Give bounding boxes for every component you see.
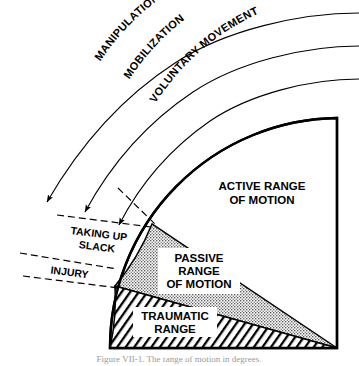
zone-label-active-range-line1: ACTIVE RANGE — [219, 180, 306, 192]
figure-caption: Figure VII-1. The range of motion in deg… — [97, 354, 262, 364]
zone-label-passive-range-line3: OF MOTION — [166, 278, 231, 290]
zone-label-traumatic-range-line2: RANGE — [154, 323, 196, 335]
zone-label-passive-range: PASSIVE RANGE OF MOTION — [158, 248, 240, 294]
zone-label-active-range-line2: OF MOTION — [229, 194, 294, 206]
zone-label-passive-range-line2: RANGE — [178, 265, 220, 277]
range-of-motion-figure: MANIPULATION MOBILIZATION VOLUNTARY MOVE… — [0, 0, 359, 366]
bracket-label-taking-up-slack: TAKING UP SLACK — [68, 224, 128, 256]
bracket-label-group: TAKING UP SLACK INJURY — [50, 224, 128, 280]
zone-label-passive-range-line1: PASSIVE — [175, 252, 224, 264]
zone-label-traumatic-range: TRAUMATIC RANGE — [133, 307, 217, 337]
diagram-canvas: MANIPULATION MOBILIZATION VOLUNTARY MOVE… — [0, 0, 359, 366]
zone-label-traumatic-range-line1: TRAUMATIC — [141, 310, 209, 322]
arc-label-voluntary-movement: VOLUNTARY MOVEMENT — [147, 4, 260, 104]
arc-label-voluntary-movement-text: VOLUNTARY MOVEMENT — [147, 4, 260, 104]
bracket-label-injury-line1: INJURY — [50, 264, 89, 281]
bracket-label-injury: INJURY — [50, 264, 89, 281]
arc-label-group: MANIPULATION MOBILIZATION VOLUNTARY MOVE… — [92, 0, 260, 104]
